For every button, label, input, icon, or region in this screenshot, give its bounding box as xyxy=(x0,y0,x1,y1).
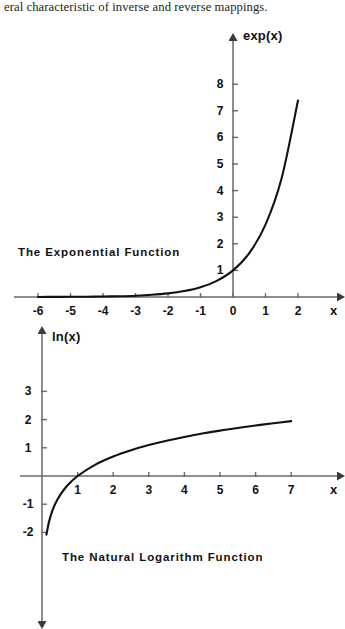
exponential-ytick-label: 7 xyxy=(217,104,224,118)
logarithm-axes xyxy=(20,333,338,622)
logarithm-curve xyxy=(46,421,291,535)
exponential-tick-marks xyxy=(38,84,298,298)
exponential-xtick-label: -5 xyxy=(65,304,76,318)
logarithm-xtick-label: 4 xyxy=(181,483,188,497)
exponential-xtick-label: -3 xyxy=(130,304,141,318)
logarithm-figure-caption: The Natural Logarithm Function xyxy=(62,551,263,563)
figure-natural-logarithm xyxy=(0,325,345,629)
logarithm-plot xyxy=(0,325,345,629)
logarithm-ytick-label: -2 xyxy=(23,525,34,539)
logarithm-xtick-label: 7 xyxy=(288,483,295,497)
exponential-figure-caption: The Exponential Function xyxy=(18,246,180,258)
exponential-xtick-label: 2 xyxy=(295,304,302,318)
document-page: eral characteristic of inverse and rever… xyxy=(0,0,345,629)
exponential-curve xyxy=(38,100,298,296)
logarithm-y-axis-label: ln(x) xyxy=(52,329,80,344)
logarithm-xtick-label: 3 xyxy=(145,483,152,497)
exponential-plot xyxy=(0,22,345,322)
exponential-ytick-label: 4 xyxy=(217,184,224,198)
exponential-ytick-label: 1 xyxy=(217,263,224,277)
logarithm-x-axis-label: x xyxy=(330,482,337,497)
logarithm-xtick-label: 5 xyxy=(217,483,224,497)
exponential-ytick-label: 3 xyxy=(217,210,224,224)
logarithm-ytick-label: 3 xyxy=(25,384,32,398)
exponential-y-axis-label: exp(x) xyxy=(243,28,283,43)
exponential-xtick-label: -1 xyxy=(195,304,206,318)
logarithm-xtick-label: 1 xyxy=(74,483,81,497)
exponential-xtick-label: -4 xyxy=(98,304,109,318)
exponential-axes xyxy=(14,40,338,297)
exponential-xtick-label: 0 xyxy=(230,304,237,318)
logarithm-xtick-label: 6 xyxy=(252,483,259,497)
exponential-xtick-label: 1 xyxy=(262,304,269,318)
logarithm-tick-marks xyxy=(41,391,291,532)
exponential-ytick-label: 5 xyxy=(217,157,224,171)
logarithm-ytick-label: 1 xyxy=(25,441,32,455)
logarithm-xtick-label: 2 xyxy=(110,483,117,497)
figure-exponential xyxy=(0,22,345,322)
exponential-ytick-label: 8 xyxy=(217,77,224,91)
logarithm-ytick-label: 2 xyxy=(25,413,32,427)
exponential-xtick-label: -6 xyxy=(33,304,44,318)
exponential-ytick-label: 6 xyxy=(217,130,224,144)
exponential-x-axis-label: x xyxy=(330,303,337,318)
logarithm-ytick-label: -1 xyxy=(23,497,34,511)
body-paragraph-text: eral characteristic of inverse and rever… xyxy=(4,0,345,15)
exponential-ytick-label: 2 xyxy=(217,237,224,251)
exponential-xtick-label: -2 xyxy=(163,304,174,318)
